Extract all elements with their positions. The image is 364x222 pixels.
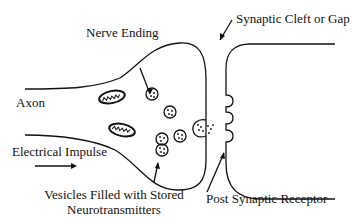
synapse-diagram: Nerve Ending Synaptic Cleft or Gap Axon … xyxy=(0,0,364,222)
label-axon: Axon xyxy=(16,96,45,109)
vesicle xyxy=(174,130,186,142)
vesicle xyxy=(156,144,168,156)
vesicle xyxy=(164,106,176,118)
vesicle xyxy=(156,133,168,145)
label-electrical-impulse: Electrical Impulse xyxy=(12,145,107,158)
label-vesicles-line1: Vesicles Filled with Stored xyxy=(34,188,194,201)
exocytosis-vesicle xyxy=(193,120,206,137)
label-synaptic-cleft: Synaptic Cleft or Gap xyxy=(236,12,350,25)
label-vesicles-line2: Neurotransmitters xyxy=(34,203,194,216)
label-nerve-ending: Nerve Ending xyxy=(86,26,159,39)
postsynaptic-membrane xyxy=(226,44,335,199)
label-post-synaptic-receptor: Post Synaptic Receptor xyxy=(206,192,327,205)
mitochondrion xyxy=(108,121,136,138)
presynaptic-membrane xyxy=(25,43,206,190)
mitochondrion xyxy=(98,88,126,105)
